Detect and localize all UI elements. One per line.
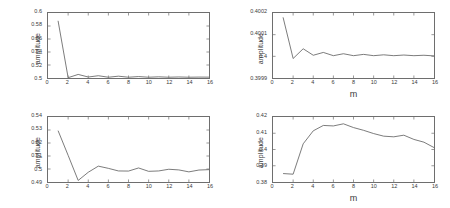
y-tick-label: 0.51 bbox=[31, 153, 42, 159]
data-line-bottom-right bbox=[273, 117, 434, 182]
y-tick-label: 0.54 bbox=[31, 49, 42, 55]
y-tick-label: 0.4002 bbox=[250, 9, 267, 15]
x-tick-label: 8 bbox=[352, 80, 355, 86]
x-tick-label: 12 bbox=[166, 184, 172, 190]
x-tick-label: 0 bbox=[270, 184, 273, 190]
x-tick-label: 10 bbox=[371, 80, 377, 86]
y-tick-label: 0.5 bbox=[34, 167, 42, 173]
subplot-top-right: amplitude 0.39990.40.40010.4002 02468101… bbox=[225, 0, 450, 104]
x-tick-label: 14 bbox=[187, 80, 193, 86]
y-tick-label: 0.4 bbox=[259, 147, 267, 153]
data-line-top-left bbox=[48, 13, 209, 78]
y-tick-label: 0.49 bbox=[31, 180, 42, 186]
subplot-bottom-left: amplitude 0.490.50.510.520.530.54 024681… bbox=[0, 104, 225, 208]
x-tick-label: 8 bbox=[352, 184, 355, 190]
y-tick-labels: 0.50.520.540.560.580.6 bbox=[0, 12, 44, 79]
plot-area bbox=[47, 12, 210, 79]
y-tick-label: 0.56 bbox=[31, 36, 42, 42]
y-tick-label: 0.53 bbox=[31, 127, 42, 133]
plot-area bbox=[272, 116, 435, 183]
x-tick-label: 6 bbox=[332, 184, 335, 190]
x-tick-label: 0 bbox=[45, 80, 48, 86]
x-tick-label: 8 bbox=[127, 184, 130, 190]
x-tick-label: 4 bbox=[311, 184, 314, 190]
y-tick-label: 0.52 bbox=[31, 63, 42, 69]
x-tick-label: 12 bbox=[391, 184, 397, 190]
x-tick-label: 10 bbox=[371, 184, 377, 190]
x-tick-label: 16 bbox=[207, 184, 213, 190]
y-tick-label: 0.54 bbox=[31, 113, 42, 119]
x-tick-label: 6 bbox=[332, 80, 335, 86]
x-tick-label: 10 bbox=[146, 80, 152, 86]
plot-area bbox=[47, 116, 210, 183]
x-tick-label: 0 bbox=[270, 80, 273, 86]
x-tick-label: 14 bbox=[412, 80, 418, 86]
y-tick-label: 0.38 bbox=[256, 180, 267, 186]
x-tick-label: 2 bbox=[66, 184, 69, 190]
x-tick-labels: 0246810121416 bbox=[47, 184, 210, 194]
x-tick-labels: 0246810121416 bbox=[47, 80, 210, 90]
y-tick-label: 0.4 bbox=[259, 54, 267, 60]
y-tick-label: 0.42 bbox=[256, 113, 267, 119]
x-tick-label: 4 bbox=[311, 80, 314, 86]
x-tick-label: 2 bbox=[291, 80, 294, 86]
data-line-bottom-left bbox=[48, 117, 209, 182]
y-tick-labels: 0.39990.40.40010.4002 bbox=[225, 12, 269, 79]
x-tick-label: 2 bbox=[291, 184, 294, 190]
y-tick-label: 0.3999 bbox=[250, 76, 267, 82]
subplot-bottom-right: amplitude 0.380.390.40.410.42 0246810121… bbox=[225, 104, 450, 208]
figure-four-subplots: amplitude 0.50.520.540.560.580.6 0246810… bbox=[0, 0, 450, 208]
x-tick-label: 4 bbox=[86, 80, 89, 86]
x-axis-label: m bbox=[272, 89, 435, 99]
x-tick-label: 6 bbox=[107, 80, 110, 86]
x-tick-label: 6 bbox=[107, 184, 110, 190]
x-tick-label: 2 bbox=[66, 80, 69, 86]
x-tick-label: 16 bbox=[432, 80, 438, 86]
x-tick-label: 8 bbox=[127, 80, 130, 86]
x-tick-label: 16 bbox=[432, 184, 438, 190]
x-tick-label: 4 bbox=[86, 184, 89, 190]
y-tick-labels: 0.490.50.510.520.530.54 bbox=[0, 116, 44, 183]
x-tick-label: 10 bbox=[146, 184, 152, 190]
subplot-top-left: amplitude 0.50.520.540.560.580.6 0246810… bbox=[0, 0, 225, 104]
x-tick-label: 12 bbox=[391, 80, 397, 86]
data-line-top-right bbox=[273, 13, 434, 78]
y-tick-label: 0.52 bbox=[31, 140, 42, 146]
x-tick-label: 14 bbox=[187, 184, 193, 190]
y-tick-label: 0.39 bbox=[256, 164, 267, 170]
x-axis-label: m bbox=[272, 193, 435, 203]
plot-area bbox=[272, 12, 435, 79]
y-tick-label: 0.58 bbox=[31, 23, 42, 29]
x-tick-label: 16 bbox=[207, 80, 213, 86]
y-tick-label: 0.4001 bbox=[250, 32, 267, 38]
y-tick-label: 0.6 bbox=[34, 9, 42, 15]
x-tick-label: 12 bbox=[166, 80, 172, 86]
y-tick-label: 0.41 bbox=[256, 130, 267, 136]
y-tick-labels: 0.380.390.40.410.42 bbox=[225, 116, 269, 183]
x-tick-label: 0 bbox=[45, 184, 48, 190]
y-tick-label: 0.5 bbox=[34, 76, 42, 82]
x-tick-label: 14 bbox=[412, 184, 418, 190]
